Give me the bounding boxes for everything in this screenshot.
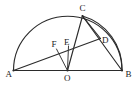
segment-co [68, 16, 83, 71]
geometry-canvas: A B O C D E F [0, 0, 137, 85]
point-label-f: F [52, 39, 57, 49]
point-label-a: A [6, 69, 13, 79]
point-label-e: E [64, 37, 70, 47]
vertex-dot-c [81, 15, 83, 17]
geometry-figure: A B O C D E F [0, 0, 137, 85]
vertex-dot-b [121, 69, 123, 71]
point-label-b: B [126, 69, 132, 79]
point-label-c: C [80, 3, 86, 13]
segment-ad [14, 39, 101, 71]
vertex-dot-a [12, 69, 14, 71]
point-label-d: D [102, 35, 109, 45]
point-label-o: O [64, 73, 71, 83]
vertex-dot-o [66, 69, 68, 71]
